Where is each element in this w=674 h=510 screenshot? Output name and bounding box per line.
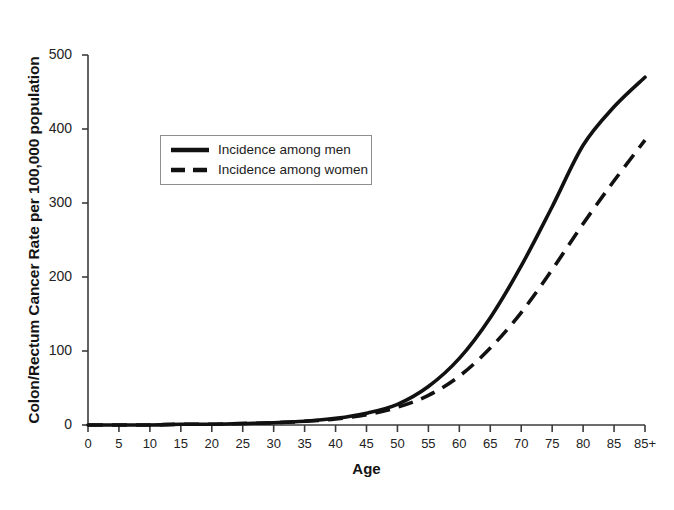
legend-label-women: Incidence among women (218, 160, 368, 180)
legend-label-men: Incidence among men (218, 140, 351, 160)
y-axis-tick-label: 100 (20, 342, 72, 358)
axis-lines (88, 55, 645, 425)
x-axis-tick-label: 85+ (625, 436, 665, 451)
y-axis-tick-label: 300 (20, 194, 72, 210)
chart-legend: Incidence among men Incidence among wome… (160, 135, 372, 185)
series-line-men (88, 77, 645, 425)
y-axis-tick-label: 0 (20, 416, 72, 432)
y-axis-tick-label: 500 (20, 46, 72, 62)
plot-area (0, 0, 674, 510)
x-axis-title: Age (88, 460, 645, 477)
legend-key-solid-line (170, 140, 210, 160)
legend-key-dashed-line (170, 160, 210, 180)
legend-item-women: Incidence among women (170, 160, 368, 180)
y-axis-tick-label: 400 (20, 120, 72, 136)
colon-rectum-incidence-by-age-chart: Colon/Rectum Cancer Rate per 100,000 pop… (0, 0, 674, 510)
legend-item-men: Incidence among men (170, 140, 351, 160)
y-axis-tick-label: 200 (20, 268, 72, 284)
y-axis-ticks (82, 55, 88, 425)
